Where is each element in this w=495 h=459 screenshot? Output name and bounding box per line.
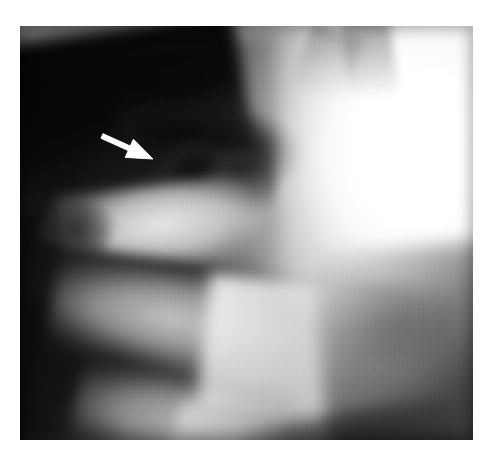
arrow-icon [101,134,153,159]
figure-root [0,0,495,459]
annotation-overlay [20,26,473,440]
radiograph-image [20,26,473,440]
caption-ghost-text [20,442,473,458]
